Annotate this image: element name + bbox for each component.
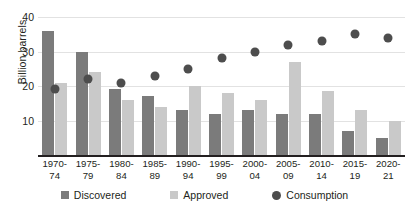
- x-axis-label-1970-74: 1970-74: [38, 158, 71, 181]
- legend-item-approved[interactable]: Approved: [170, 189, 228, 201]
- consumption-dot: [84, 75, 93, 84]
- bar-discovered: [276, 114, 288, 155]
- x-label-line: 2010-: [305, 158, 338, 170]
- legend-label: Approved: [183, 189, 228, 201]
- x-label-line: 89: [138, 170, 171, 182]
- bar-approved: [55, 83, 67, 155]
- x-label-line: 1975-: [71, 158, 104, 170]
- bar-approved: [389, 121, 401, 156]
- x-label-line: 04: [238, 170, 271, 182]
- bar-approved: [355, 110, 367, 155]
- consumption-dot: [384, 33, 393, 42]
- bar-group: [71, 17, 104, 155]
- legend-item-discovered[interactable]: Discovered: [61, 189, 127, 201]
- bar-group: [205, 17, 238, 155]
- x-axis-label-1975-79: 1975-79: [71, 158, 104, 181]
- legend-item-consumption[interactable]: Consumption: [272, 189, 348, 201]
- plot-area: [38, 17, 405, 155]
- legend-label: Consumption: [286, 189, 348, 201]
- bar-discovered: [142, 96, 154, 155]
- x-label-line: 2015-: [338, 158, 371, 170]
- x-label-line: 14: [305, 170, 338, 182]
- bar-discovered: [176, 110, 188, 155]
- square-swatch-light-icon: [170, 191, 178, 199]
- bar-group: [138, 17, 171, 155]
- bar-group: [238, 17, 271, 155]
- consumption-dot: [250, 47, 259, 56]
- x-label-line: 2020-: [372, 158, 405, 170]
- chart-container: Billion barrels 10203040 1970-741975-791…: [0, 0, 409, 214]
- bar-discovered: [342, 131, 354, 155]
- bar-group: [171, 17, 204, 155]
- consumption-dot: [117, 78, 126, 87]
- x-label-line: 94: [171, 170, 204, 182]
- x-axis-labels: 1970-741975-791980-841985-891990-941995-…: [38, 158, 405, 188]
- x-label-line: 84: [105, 170, 138, 182]
- x-axis-label-1980-84: 1980-84: [105, 158, 138, 181]
- circle-swatch-dark-icon: [272, 191, 281, 200]
- bar-group: [272, 17, 305, 155]
- y-tick-label-40: 40: [4, 11, 34, 23]
- consumption-dot: [184, 64, 193, 73]
- consumption-dot: [284, 40, 293, 49]
- consumption-dot: [50, 85, 59, 94]
- x-label-line: 79: [71, 170, 104, 182]
- bar-discovered: [209, 114, 221, 155]
- y-tick-label-20: 20: [4, 80, 34, 92]
- bar-approved: [189, 86, 201, 155]
- square-swatch-dark-icon: [61, 191, 69, 199]
- bar-approved: [322, 91, 334, 155]
- consumption-dot: [150, 71, 159, 80]
- x-label-line: 21: [372, 170, 405, 182]
- y-axis-ticks: 10203040: [0, 17, 34, 155]
- bar-approved: [122, 100, 134, 155]
- x-label-line: 09: [272, 170, 305, 182]
- bar-approved: [155, 107, 167, 155]
- x-axis-label-1985-89: 1985-89: [138, 158, 171, 181]
- consumption-dot: [217, 54, 226, 63]
- bar-discovered: [109, 89, 121, 155]
- x-axis-label-2020-21: 2020-21: [372, 158, 405, 181]
- x-label-line: 99: [205, 170, 238, 182]
- x-axis-label-2015-19: 2015-19: [338, 158, 371, 181]
- bar-approved: [222, 93, 234, 155]
- y-tick-label-10: 10: [4, 115, 34, 127]
- x-label-line: 1985-: [138, 158, 171, 170]
- y-tick-label-30: 30: [4, 46, 34, 58]
- legend-label: Discovered: [74, 189, 127, 201]
- x-axis-line: [38, 155, 405, 157]
- bar-discovered: [309, 114, 321, 155]
- bar-discovered: [242, 110, 254, 155]
- bar-approved: [255, 100, 267, 155]
- x-axis-label-2010-14: 2010-14: [305, 158, 338, 181]
- x-axis-label-2005-09: 2005-09: [272, 158, 305, 181]
- x-label-line: 2005-: [272, 158, 305, 170]
- x-label-line: 1980-: [105, 158, 138, 170]
- x-axis-label-1995-99: 1995-99: [205, 158, 238, 181]
- x-label-line: 1970-: [38, 158, 71, 170]
- x-label-line: 74: [38, 170, 71, 182]
- x-axis-label-1990-94: 1990-94: [171, 158, 204, 181]
- bar-approved: [89, 72, 101, 155]
- x-label-line: 1995-: [205, 158, 238, 170]
- chart-legend: DiscoveredApprovedConsumption: [0, 189, 409, 201]
- bar-discovered: [76, 52, 88, 156]
- x-label-line: 2000-: [238, 158, 271, 170]
- x-axis-label-2000-04: 2000-04: [238, 158, 271, 181]
- x-label-line: 19: [338, 170, 371, 182]
- bar-discovered: [376, 138, 388, 155]
- consumption-dot: [350, 30, 359, 39]
- consumption-dot: [317, 37, 326, 46]
- bar-approved: [289, 62, 301, 155]
- x-label-line: 1990-: [171, 158, 204, 170]
